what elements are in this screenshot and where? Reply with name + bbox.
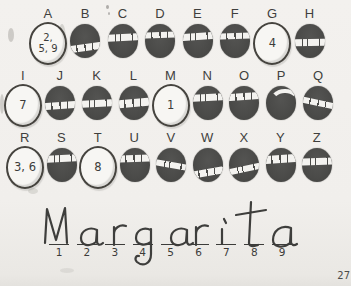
blank-item-5: 5 [161, 244, 181, 258]
paper-smudge [8, 28, 14, 42]
handwritten-letter-r [196, 225, 208, 245]
blank-line [216, 244, 236, 245]
blank-item-2: 2 [77, 244, 97, 258]
answer-bubble-o [229, 86, 259, 120]
grid-cell-q: Q [296, 68, 340, 120]
scratch-mark [303, 96, 333, 109]
scratch-mark [145, 32, 175, 39]
handwritten-letter-i [222, 219, 226, 244]
scratch-mark [156, 159, 186, 171]
scratch-mark [220, 32, 250, 39]
bubble-value: 2, [43, 33, 53, 44]
blank-number: 1 [49, 246, 69, 258]
handwritten-letter-a [171, 229, 193, 246]
answer-bubble-l [119, 86, 149, 120]
blank-item-3: 3 [105, 244, 125, 258]
answer-bubble-j [45, 86, 75, 120]
blank-number: 3 [105, 246, 125, 258]
answer-bubble-t: 8 [79, 146, 117, 189]
answer-bubble-e [183, 24, 213, 58]
answer-bubble-u [120, 148, 150, 182]
bubble-value: 5, 9 [38, 44, 57, 55]
answer-bubble-p [266, 86, 296, 120]
blank-line [105, 244, 125, 245]
blank-item-7: 7 [216, 244, 236, 258]
blank-number: 2 [77, 246, 97, 258]
scratch-mark [193, 166, 223, 179]
answer-bubble-f [220, 24, 250, 58]
answer-bubble-w [193, 148, 223, 182]
answer-bubble-c [108, 24, 138, 58]
answer-bubble-a: 2,5, 9 [29, 22, 67, 65]
scratch-mark [295, 39, 325, 47]
choice-letter: Z [295, 130, 339, 145]
blank-line [77, 244, 97, 245]
answer-bubble-s [47, 148, 77, 182]
answer-bubble-x [229, 148, 259, 182]
blank-number: 7 [216, 246, 236, 258]
bubble-value: 4 [269, 38, 276, 49]
bubble-value: 3, 6 [14, 162, 36, 173]
answer-bubble-k [82, 86, 112, 120]
blank-line [49, 244, 69, 245]
blank-line [189, 244, 209, 245]
worksheet-page: A2,5, 9BCDEFG4HI7JKLM1NOPQR3, 6ST8UVWXYZ… [0, 0, 351, 286]
scratch-mark [229, 162, 259, 175]
scratch-mark [82, 99, 112, 108]
answer-bubble-h [295, 24, 325, 58]
choice-letter: H [288, 6, 332, 21]
blank-number: 4 [133, 246, 153, 258]
answer-bubble-r: 3, 6 [6, 146, 44, 189]
grid-cell-z: Z [295, 130, 339, 182]
answer-bubble-g: 4 [253, 22, 291, 65]
scratch-mark [45, 100, 75, 109]
answer-bubble-b [70, 24, 100, 58]
scratch-mark [193, 93, 223, 102]
blank-number: 9 [272, 246, 292, 258]
scratch-mark [47, 154, 77, 163]
page-number: 27 [337, 270, 350, 281]
blank-number: 6 [189, 246, 209, 258]
blank-item-1: 1 [49, 244, 69, 258]
handwritten-answer [40, 198, 302, 280]
answer-bubble-m: 1 [152, 84, 190, 127]
bubble-value: 8 [94, 162, 101, 173]
handwritten-letter-a [81, 229, 103, 246]
scratch-mark [266, 154, 296, 164]
bubble-value: 7 [19, 100, 26, 111]
blank-item-9: 9 [272, 244, 292, 258]
answer-bubble-i: 7 [4, 84, 42, 127]
blank-number: 5 [161, 246, 181, 258]
scratch-mark [119, 97, 149, 108]
answer-bubble-v [156, 148, 186, 182]
grid-cell-h: H [288, 6, 332, 58]
handwritten-letter-r [114, 225, 126, 245]
scratch-mark [269, 89, 297, 119]
scratch-mark [183, 32, 213, 41]
scratch-mark [70, 41, 100, 53]
choice-letter: Q [296, 68, 340, 83]
bubble-value: 1 [167, 100, 174, 111]
scratch-mark [229, 92, 259, 101]
blank-item-8: 8 [244, 244, 264, 258]
handwritten-letter-m [45, 208, 67, 243]
scratch-mark [120, 155, 150, 163]
blank-line [244, 244, 264, 245]
answer-bubble-z [302, 148, 332, 182]
blank-item-6: 6 [189, 244, 209, 258]
blank-line [161, 244, 181, 245]
blank-item-4: 4 [133, 244, 153, 258]
handwritten-letter-t [236, 202, 266, 246]
scratch-mark [302, 158, 332, 166]
answer-bubble-q [303, 86, 333, 120]
blank-line [133, 244, 153, 245]
blank-number: 8 [244, 246, 264, 258]
scratch-mark [108, 33, 138, 42]
answer-bubble-y [266, 148, 296, 182]
answer-bubble-d [145, 24, 175, 58]
blank-line [272, 244, 292, 245]
answer-bubble-n [193, 86, 223, 120]
